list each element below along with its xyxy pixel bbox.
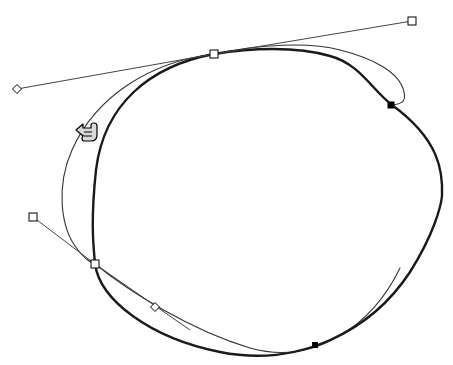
vector-editor-canvas[interactable]: Vector Path Editor Canvas bbox=[0, 0, 453, 365]
path-artwork[interactable] bbox=[0, 0, 453, 365]
tangent-line-top-right bbox=[214, 21, 412, 54]
tangent-line-top-left bbox=[17, 54, 214, 89]
tangent-line-lower-left bbox=[33, 217, 95, 264]
anchor-bottom-selected[interactable] bbox=[313, 343, 318, 348]
handle-square-top-right[interactable] bbox=[408, 17, 416, 25]
edited-path-thin[interactable] bbox=[62, 54, 400, 352]
anchor-lower-left[interactable] bbox=[91, 260, 99, 268]
anchor-points[interactable] bbox=[91, 50, 394, 348]
anchor-top[interactable] bbox=[210, 50, 218, 58]
anchor-right-selected[interactable] bbox=[388, 102, 394, 108]
pointing-hand-cursor bbox=[76, 123, 97, 141]
control-handles[interactable] bbox=[13, 17, 417, 312]
handle-diamond-top-left[interactable] bbox=[13, 85, 22, 94]
edited-path-thick[interactable] bbox=[93, 49, 442, 356]
handle-square-left[interactable] bbox=[29, 213, 37, 221]
tangent-line-lower-right bbox=[95, 264, 190, 330]
edited-path-thin-upper[interactable] bbox=[214, 45, 405, 105]
